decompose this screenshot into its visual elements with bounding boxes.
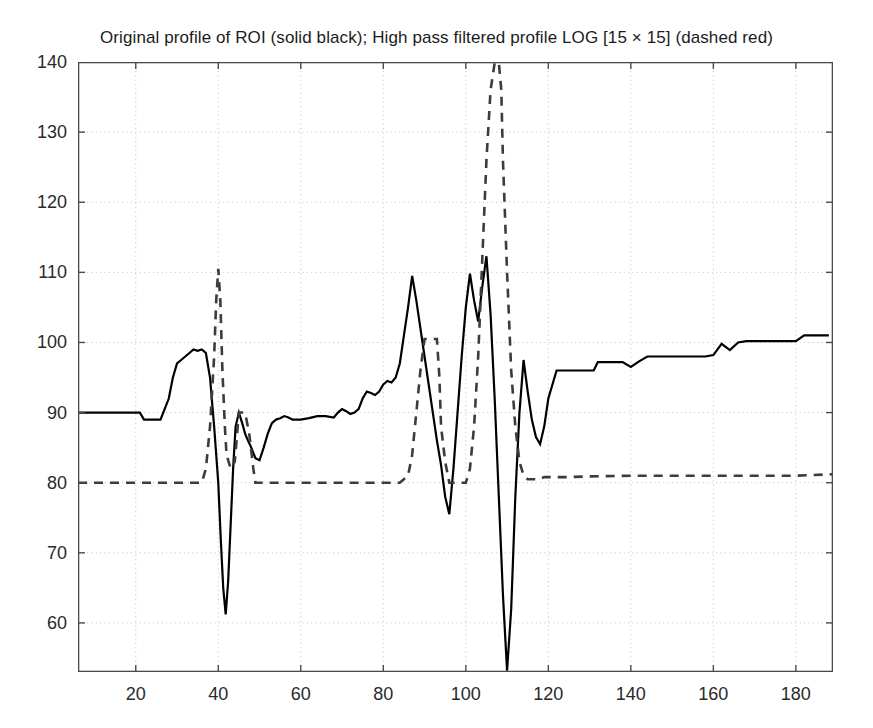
y-tick-label: 100 [0, 332, 67, 353]
x-tick-label: 40 [208, 684, 228, 705]
x-tick-label: 120 [533, 684, 563, 705]
plot-svg [78, 62, 833, 672]
axes-box [79, 63, 833, 672]
series-layer [78, 63, 833, 671]
series-line-1 [78, 63, 833, 483]
figure-canvas: Original profile of ROI (solid black); H… [0, 0, 873, 728]
y-tick-label: 140 [0, 52, 67, 73]
x-tick-label: 180 [781, 684, 811, 705]
y-tick-label: 120 [0, 192, 67, 213]
grid-layer [78, 62, 833, 672]
x-tick-label: 140 [616, 684, 646, 705]
y-tick-label: 60 [0, 612, 67, 633]
x-tick-label: 160 [698, 684, 728, 705]
y-tick-label: 70 [0, 542, 67, 563]
x-tick-label: 100 [451, 684, 481, 705]
y-tick-label: 80 [0, 472, 67, 493]
axes-frame [79, 63, 833, 672]
y-tick-label: 90 [0, 402, 67, 423]
x-tick-label: 20 [126, 684, 146, 705]
chart-title: Original profile of ROI (solid black); H… [0, 28, 873, 48]
plot-area [78, 62, 833, 672]
tick-marks [78, 62, 833, 672]
y-tick-label: 110 [0, 262, 67, 283]
x-tick-label: 80 [373, 684, 393, 705]
y-tick-label: 130 [0, 122, 67, 143]
series-line-0 [78, 256, 829, 670]
x-tick-label: 60 [291, 684, 311, 705]
